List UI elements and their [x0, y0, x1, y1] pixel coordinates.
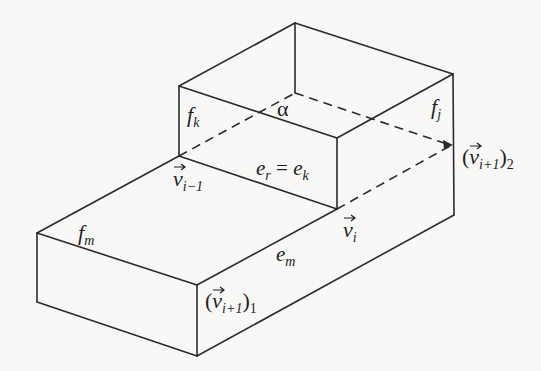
face-m-label: fm	[78, 220, 94, 248]
vertex-i-minus-1-label: vi−1	[173, 164, 203, 194]
edge-em	[197, 209, 337, 285]
vertex-i-label: vi	[343, 215, 357, 245]
lower-box	[37, 156, 454, 356]
labels: fk α fj er = ek vi−1 vi fm em (vi+1)1 (v…	[78, 94, 514, 316]
alpha-label: α	[277, 96, 289, 121]
lower-top-front-left-edge	[37, 233, 197, 285]
upper-box	[179, 23, 454, 215]
diagram-canvas: fk α fj er = ek vi−1 vi fm em (vi+1)1 (v…	[0, 0, 541, 371]
svg-text:(vi+1)1: (vi+1)1	[205, 288, 257, 316]
vertex-i-plus-1-1-label: (vi+1)1	[205, 287, 257, 316]
svg-text:(vi+1)2: (vi+1)2	[462, 144, 514, 172]
hidden-edge-front	[337, 146, 450, 209]
hidden-edges	[179, 93, 453, 209]
upper-top-back-left-edge	[179, 23, 295, 86]
face-k-label: fk	[187, 102, 200, 130]
lower-bottom-left-edge	[37, 302, 197, 356]
upper-top-front-left-edge	[179, 86, 337, 138]
edge-m-label: em	[276, 242, 295, 269]
face-j-label: fj	[431, 94, 441, 122]
hidden-edge-right	[295, 93, 450, 145]
upper-right-vertical-edge	[453, 74, 454, 215]
svg-text:vi−1: vi−1	[173, 166, 203, 194]
upper-top-back-right-edge	[295, 23, 453, 74]
svg-text:vi: vi	[343, 217, 357, 245]
box-diagram: fk α fj er = ek vi−1 vi fm em (vi+1)1 (v…	[0, 0, 541, 371]
lower-bottom-right-edge	[197, 215, 454, 356]
lower-top-back-left-edge	[37, 156, 179, 233]
vertex-i-plus-1-2-label: (vi+1)2	[462, 143, 514, 172]
edge-er-ek-label: er = ek	[256, 156, 309, 183]
